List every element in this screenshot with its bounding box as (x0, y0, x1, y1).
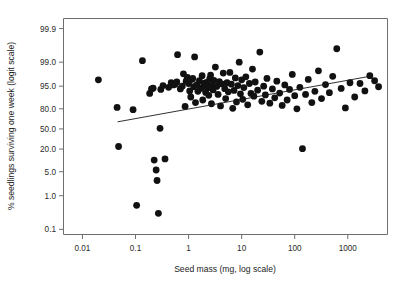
data-point (252, 79, 259, 86)
data-point (315, 67, 322, 74)
data-point (133, 202, 140, 209)
data-point (286, 86, 293, 93)
data-point (154, 177, 161, 184)
trend-line-layer (118, 76, 370, 122)
data-point (308, 99, 315, 106)
y-tick-label: 1.0 (45, 192, 57, 201)
data-point (361, 88, 368, 95)
data-point (366, 72, 373, 79)
data-point (189, 75, 196, 82)
data-point (294, 105, 301, 112)
data-point (266, 100, 273, 107)
data-point (153, 167, 160, 174)
data-point (157, 125, 164, 132)
data-point (284, 97, 291, 104)
data-point (299, 145, 306, 152)
data-point (187, 94, 194, 101)
y-tick-label: 95.0 (40, 82, 56, 91)
tick-marks (59, 29, 348, 239)
data-point (279, 102, 286, 109)
data-point (302, 91, 309, 98)
data-point (258, 98, 265, 105)
tick-labels: 0.010.1110100100099.999.095.080.050.020.… (40, 25, 357, 253)
y-tick-label: 5.0 (45, 168, 57, 177)
data-point (215, 91, 222, 98)
y-tick-label: 50.0 (40, 125, 56, 134)
data-point (329, 73, 336, 80)
data-point (228, 81, 235, 88)
data-point (199, 97, 206, 104)
data-point (318, 95, 325, 102)
data-point (199, 72, 206, 79)
data-point (208, 100, 215, 107)
data-point (234, 82, 241, 89)
y-tick-label: 99.0 (40, 58, 56, 67)
data-point (191, 54, 198, 61)
y-tick-label: 80.0 (40, 105, 56, 114)
x-tick-label: 100 (288, 244, 302, 253)
data-point (240, 84, 247, 91)
data-point (289, 71, 296, 78)
data-point (205, 92, 212, 99)
data-point (264, 75, 271, 82)
data-point (249, 66, 256, 73)
data-point (226, 69, 233, 76)
data-point (291, 92, 298, 99)
data-point (212, 64, 219, 71)
data-point (192, 99, 199, 106)
data-point (375, 83, 382, 90)
data-point (236, 59, 243, 66)
data-point (269, 86, 276, 93)
data-point (273, 78, 280, 85)
data-point (342, 104, 349, 111)
x-tick-label: 0.1 (130, 244, 142, 253)
data-point (311, 88, 318, 95)
data-point (256, 49, 263, 56)
scatter-plot: 0.010.1110100100099.999.095.080.050.020.… (0, 0, 402, 289)
y-tick-label: 99.9 (40, 25, 56, 34)
data-point (222, 95, 229, 102)
data-point (357, 80, 364, 87)
y-tick-label: 0.1 (45, 225, 57, 234)
data-point (139, 57, 146, 64)
data-point (115, 143, 122, 150)
x-tick-label: 1 (186, 244, 191, 253)
data-point (244, 101, 251, 108)
data-point (242, 73, 249, 80)
data-point (220, 70, 227, 77)
x-tick-label: 0.01 (74, 244, 90, 253)
data-point (150, 85, 157, 92)
x-tick-label: 10 (237, 244, 247, 253)
data-point (333, 45, 340, 52)
trend-line (118, 76, 370, 122)
data-point (254, 87, 261, 94)
data-points-layer (95, 45, 382, 216)
data-point (371, 77, 378, 84)
data-point (250, 93, 257, 100)
y-axis-title: % seedlings surviving one week (logit sc… (6, 42, 16, 210)
data-point (225, 88, 232, 95)
data-point (246, 80, 253, 87)
data-point (232, 75, 239, 82)
data-point (271, 94, 278, 101)
x-axis-title: Seed mass (mg, log scale) (174, 264, 276, 274)
data-point (162, 155, 169, 162)
data-point (260, 83, 267, 90)
chart-figure: 0.010.1110100100099.999.095.080.050.020.… (0, 0, 402, 289)
data-point (229, 105, 236, 112)
data-point (305, 76, 312, 83)
data-point (173, 79, 180, 86)
data-point (338, 85, 345, 92)
y-tick-label: 20.0 (40, 145, 56, 154)
data-point (174, 51, 181, 58)
data-point (326, 89, 333, 96)
data-point (151, 157, 158, 164)
data-point (155, 210, 162, 217)
data-point (95, 76, 102, 83)
x-tick-label: 1000 (339, 244, 358, 253)
data-point (351, 94, 358, 101)
data-point (130, 106, 137, 113)
data-point (114, 104, 121, 111)
